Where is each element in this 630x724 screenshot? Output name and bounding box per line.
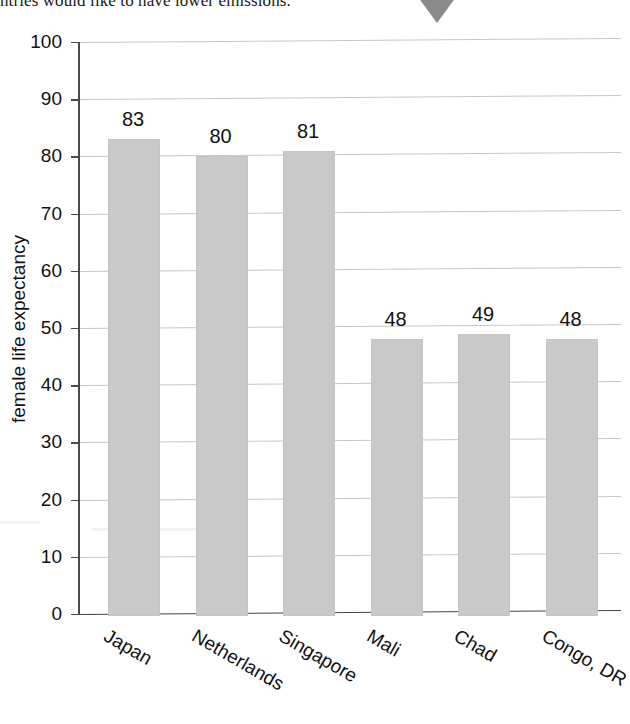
bar-value-label: 48 (536, 308, 606, 331)
y-axis-tick (71, 442, 80, 443)
y-axis-tick-label: 60 (0, 260, 62, 282)
y-axis-tick-label: 10 (0, 546, 62, 568)
x-axis-category-label: Chad (450, 625, 500, 667)
y-axis-tick-label: 40 (0, 374, 62, 396)
y-axis-tick-label: 90 (0, 88, 62, 110)
x-axis-category-label: Japan (100, 625, 156, 670)
gridline (79, 152, 621, 157)
scan-artifact (0, 521, 40, 524)
y-axis-tick-label: 80 (0, 145, 62, 167)
y-axis-tick (71, 99, 80, 100)
y-axis-tick-label: 0 (0, 603, 62, 625)
bar (196, 156, 248, 616)
y-axis-tick (71, 156, 80, 157)
gridline (79, 496, 621, 501)
bar-value-label: 83 (98, 108, 168, 131)
gridline (79, 38, 621, 43)
bar (546, 339, 598, 616)
bar-value-label: 48 (361, 308, 431, 331)
bar (371, 339, 423, 616)
y-axis-tick-label: 70 (0, 203, 62, 225)
gridline (79, 267, 621, 272)
gridline (79, 95, 621, 100)
y-axis-tick-label: 100 (0, 31, 62, 53)
gridline (79, 210, 621, 215)
gridline (79, 553, 621, 558)
bar-value-label: 80 (186, 125, 256, 148)
bar (458, 334, 510, 616)
x-axis-baseline (79, 610, 621, 615)
gridline (79, 381, 621, 386)
bar (108, 139, 160, 616)
x-axis-category-label: Netherlands (188, 625, 288, 695)
y-axis-tick (71, 500, 80, 501)
x-axis-category-label: Congo, DR (538, 625, 630, 691)
x-axis-category-label: Mali (363, 625, 404, 661)
y-axis-tick (71, 614, 80, 615)
x-axis-category-label: Singapore (275, 625, 361, 687)
y-axis-tick (71, 271, 80, 272)
bar-value-label: 49 (448, 303, 518, 326)
bar-value-label: 81 (273, 120, 343, 143)
y-axis-tick-label: 50 (0, 317, 62, 339)
gridline (79, 438, 621, 443)
y-axis-tick (71, 214, 80, 215)
y-axis-tick-label: 30 (0, 431, 62, 453)
bar (283, 151, 335, 616)
y-axis-tick (71, 385, 80, 386)
y-axis-tick (71, 42, 80, 43)
y-axis-tick (71, 557, 80, 558)
y-axis-tick (71, 328, 80, 329)
y-axis-tick-label: 20 (0, 489, 62, 511)
